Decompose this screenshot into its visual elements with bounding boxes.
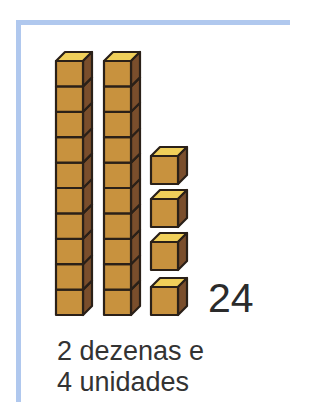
unit-cubes [151,147,187,315]
cube-front-face [151,242,178,270]
cube-front-face [104,264,131,289]
cube-front-face [104,61,131,86]
unit-cube [151,278,187,315]
cube-front-face [104,163,131,188]
cube-front-face [151,199,178,227]
number-label: 24 [208,278,254,319]
tens-rods [56,52,140,315]
unit-cube [151,190,187,227]
unit-cube [151,147,187,184]
cube-front-face [151,287,178,315]
cube-front-face [104,112,131,137]
caption-line-units: 4 unidades [57,367,204,398]
cube-front-face [56,188,83,213]
cube-front-face [104,137,131,162]
caption: 2 dezenas e 4 unidades [57,336,204,398]
tens-rod [56,52,92,315]
cube-front-face [56,264,83,289]
tens-rod [104,52,140,315]
cube-front-face [104,213,131,238]
cube-front-face [104,86,131,111]
cube-front-face [104,290,131,315]
cube-front-face [104,239,131,264]
cube-front-face [104,188,131,213]
caption-line-tens: 2 dezenas e [57,336,204,367]
cube-front-face [151,156,178,184]
cube-front-face [56,61,83,86]
cube-front-face [56,213,83,238]
cube-front-face [56,239,83,264]
cube-front-face [56,137,83,162]
unit-cube [151,233,187,270]
cube-front-face [56,163,83,188]
cube-front-face [56,290,83,315]
cube-front-face [56,112,83,137]
cube-front-face [56,86,83,111]
